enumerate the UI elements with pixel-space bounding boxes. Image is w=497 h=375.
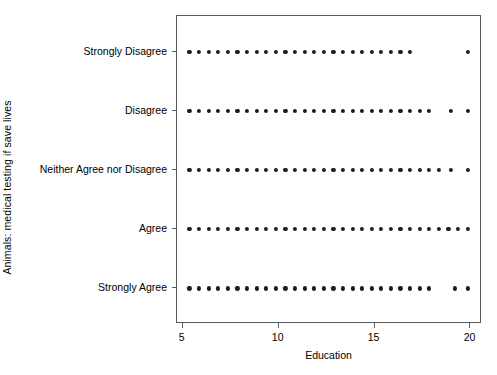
data-point: [283, 227, 287, 231]
data-point: [264, 49, 268, 53]
data-point: [245, 168, 249, 172]
data-point: [389, 286, 393, 290]
data-point: [226, 227, 230, 231]
data-point: [418, 286, 422, 290]
data-point: [293, 49, 297, 53]
data-point: [207, 168, 211, 172]
data-point: [360, 227, 364, 231]
y-axis-tick-label: Disagree: [0, 103, 176, 117]
data-point: [453, 286, 457, 290]
data-point: [274, 286, 278, 290]
data-point: [437, 227, 441, 231]
data-point: [302, 286, 306, 290]
data-point: [408, 109, 412, 113]
data-point: [302, 109, 306, 113]
data-point: [255, 49, 259, 53]
data-point: [341, 168, 345, 172]
data-point: [312, 286, 316, 290]
data-point: [370, 286, 374, 290]
x-axis-tick-label: 10: [272, 331, 284, 343]
data-point: [322, 49, 326, 53]
data-point: [235, 227, 239, 231]
x-axis-tick-label: 15: [368, 331, 380, 343]
data-point: [350, 227, 354, 231]
data-point: [226, 168, 230, 172]
x-axis-title: Education: [176, 349, 481, 361]
data-point: [302, 227, 306, 231]
x-axis-tick-mark: [182, 323, 183, 328]
data-point: [331, 49, 335, 53]
data-point: [197, 168, 201, 172]
data-point: [245, 227, 249, 231]
data-point: [360, 109, 364, 113]
y-axis-tick-label: Neither Agree nor Disagree: [0, 162, 176, 176]
data-point: [408, 227, 412, 231]
data-point: [408, 49, 412, 53]
data-point: [216, 286, 220, 290]
data-point: [207, 227, 211, 231]
data-point: [293, 286, 297, 290]
data-point: [312, 227, 316, 231]
data-point: [418, 227, 422, 231]
data-point: [264, 227, 268, 231]
data-point: [322, 168, 326, 172]
data-point: [245, 109, 249, 113]
data-point: [341, 109, 345, 113]
data-point: [370, 227, 374, 231]
data-point: [360, 49, 364, 53]
data-point: [456, 227, 460, 231]
data-point: [466, 168, 470, 172]
x-axis-tick-label: 20: [464, 331, 476, 343]
data-point: [264, 286, 268, 290]
data-point: [370, 49, 374, 53]
data-point: [207, 49, 211, 53]
data-point: [379, 286, 383, 290]
data-point: [341, 227, 345, 231]
y-axis-tick-label: Strongly Disagree: [0, 44, 176, 58]
data-point: [408, 168, 412, 172]
data-point: [379, 49, 383, 53]
data-point: [235, 286, 239, 290]
x-axis-tick-label: 5: [179, 331, 185, 343]
data-point: [274, 49, 278, 53]
data-point: [197, 286, 201, 290]
data-point: [437, 168, 441, 172]
y-axis-tick-label: Strongly Agree: [0, 280, 176, 294]
data-point: [379, 109, 383, 113]
scatter-plot-figure: Animals: medical testing if save lives S…: [0, 0, 497, 375]
data-point: [312, 168, 316, 172]
data-point: [293, 109, 297, 113]
data-point: [389, 49, 393, 53]
data-point: [360, 286, 364, 290]
data-point: [418, 168, 422, 172]
data-point: [226, 49, 230, 53]
data-point: [370, 109, 374, 113]
data-point: [264, 168, 268, 172]
data-point: [322, 227, 326, 231]
data-point: [350, 286, 354, 290]
data-point: [331, 109, 335, 113]
x-axis-tick-mark: [374, 323, 375, 328]
plot-panel: [176, 15, 481, 323]
data-point: [466, 109, 470, 113]
data-point: [389, 227, 393, 231]
data-point: [226, 109, 230, 113]
data-point: [235, 168, 239, 172]
data-point: [466, 227, 470, 231]
data-point: [197, 227, 201, 231]
data-point: [312, 109, 316, 113]
data-point: [255, 227, 259, 231]
data-point: [331, 168, 335, 172]
data-point: [283, 168, 287, 172]
data-point: [331, 286, 335, 290]
data-point: [283, 286, 287, 290]
data-point: [187, 227, 191, 231]
data-point: [379, 168, 383, 172]
data-point: [255, 168, 259, 172]
data-point: [216, 49, 220, 53]
data-point: [293, 168, 297, 172]
data-point: [370, 168, 374, 172]
data-point: [449, 168, 453, 172]
data-point: [302, 49, 306, 53]
x-axis-tick-mark: [278, 323, 279, 328]
